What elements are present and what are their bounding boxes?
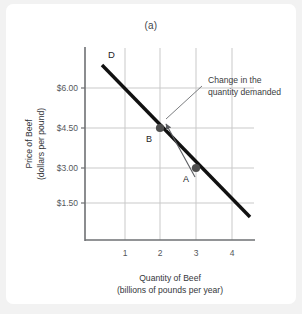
y-tick-label-4-5: $4.50	[57, 123, 79, 133]
y-axis-title-line-1: Price of Beef	[24, 119, 34, 169]
data-point-a	[192, 164, 200, 172]
data-point-a-label: A	[183, 174, 189, 184]
x-axis-title-line-2: (billions of pounds per year)	[117, 285, 223, 295]
demand-curve-chart: $6.00 $4.50 $3.00 $1.50 1 2 3 4 D	[6, 4, 296, 304]
gridlines-horizontal	[85, 88, 254, 203]
figure-root: (a)	[0, 0, 302, 314]
y-axis-title-line-2: (dollars per pound)	[36, 108, 46, 180]
data-point-b	[156, 124, 164, 132]
x-tick-label-4: 4	[230, 248, 235, 258]
y-tick-label-1-5: $1.50	[57, 198, 79, 208]
x-tick-label-2: 2	[158, 248, 163, 258]
data-point-b-label: B	[146, 134, 152, 144]
annotation-leader-line	[166, 86, 202, 119]
movement-arrow	[166, 124, 195, 177]
annotation-line-1: Change in the	[208, 75, 262, 85]
y-tick-label-6: $6.00	[57, 83, 79, 93]
x-axis-title-line-1: Quantity of Beef	[139, 273, 201, 283]
annotation-line-2: quantity demanded	[208, 87, 281, 97]
y-tick-label-3: $3.00	[57, 163, 79, 173]
x-tick-label-3: 3	[194, 248, 199, 258]
figure-card: (a)	[6, 4, 296, 304]
demand-curve-label: D	[108, 49, 115, 60]
x-tick-label-1: 1	[123, 248, 128, 258]
